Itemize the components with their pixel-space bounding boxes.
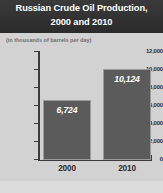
x-axis-end-tick xyxy=(151,155,153,160)
bar-chart-figure: Russian Crude Oil Production, 2000 and 2… xyxy=(0,0,163,193)
bar-value-2000: 6,724 xyxy=(44,105,90,115)
figure-footer-band xyxy=(0,181,163,193)
chart-title-line-2: 2000 and 2010 xyxy=(4,16,159,30)
chart-subtitle: (in thousands of barrels per day) xyxy=(6,37,91,43)
x-tick-label-2000: 2000 xyxy=(43,164,91,173)
bar-value-2010: 10,124 xyxy=(104,74,150,84)
bar-2000: 6,724 xyxy=(43,100,91,160)
chart-title-line-1: Russian Crude Oil Production, xyxy=(4,2,159,16)
bar-2010: 10,124 xyxy=(103,69,151,160)
chart-title: Russian Crude Oil Production, 2000 and 2… xyxy=(4,2,159,29)
plot-area: (in thousands of barrels per day) 12,000… xyxy=(0,33,163,181)
y-axis-line xyxy=(38,51,40,161)
y-tick-label-12000: 12,000 xyxy=(131,48,163,54)
x-axis-line xyxy=(38,160,152,162)
chart-header-band: Russian Crude Oil Production, 2000 and 2… xyxy=(0,0,163,33)
x-tick-label-2010: 2010 xyxy=(103,164,151,173)
